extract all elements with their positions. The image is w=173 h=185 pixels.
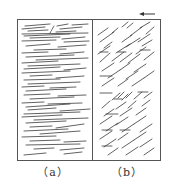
arrow-left-icon <box>139 12 155 16</box>
panel-b-label: （b） <box>107 163 147 179</box>
fiber-orientation-diagram <box>0 0 173 185</box>
panel-a-fibers <box>22 24 90 155</box>
panel-b-fibers <box>98 22 154 155</box>
panel-a-label: （a） <box>33 163 73 179</box>
